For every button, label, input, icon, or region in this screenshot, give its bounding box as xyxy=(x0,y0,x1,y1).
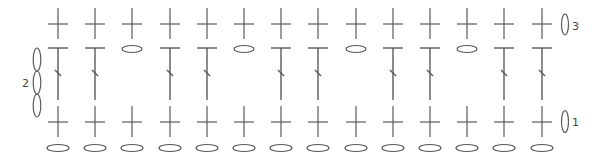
chain-icon xyxy=(346,46,366,53)
crochet-chart: 2 3 1 xyxy=(0,0,600,163)
chain-icon xyxy=(345,145,367,152)
double-crochet-icon xyxy=(383,48,403,100)
single-crochet-icon xyxy=(160,8,180,39)
single-crochet-icon xyxy=(85,106,105,137)
row-3-turning-chain: 3 xyxy=(562,14,580,35)
chain-icon xyxy=(493,145,515,152)
single-crochet-icon xyxy=(457,8,477,39)
row-label-2: 2 xyxy=(22,77,29,90)
single-crochet-icon xyxy=(346,106,366,137)
single-crochet-icon xyxy=(234,8,254,39)
double-crochet-icon xyxy=(48,48,68,100)
row-2-double-crochet xyxy=(48,46,552,101)
chain-icon xyxy=(234,46,254,53)
double-crochet-icon xyxy=(160,48,180,100)
chain-icon xyxy=(84,145,106,152)
single-crochet-icon xyxy=(494,106,514,137)
single-crochet-icon xyxy=(197,8,217,39)
single-crochet-icon xyxy=(308,8,328,39)
chain-icon xyxy=(270,145,292,152)
single-crochet-icon xyxy=(122,8,142,39)
double-crochet-icon xyxy=(420,48,440,100)
single-crochet-icon xyxy=(532,8,552,39)
row-2-turning-chain: 2 xyxy=(22,48,41,117)
chain-icon xyxy=(419,145,441,152)
row-3-single-crochet xyxy=(48,8,552,39)
row-1-turning-chain: 1 xyxy=(562,111,580,133)
chain-icon xyxy=(33,48,41,71)
chain-icon xyxy=(531,145,553,152)
row-label-3: 3 xyxy=(572,20,579,33)
foundation-chain-row xyxy=(47,145,553,152)
single-crochet-icon xyxy=(85,8,105,39)
chain-icon xyxy=(382,145,404,152)
row-label-1: 1 xyxy=(572,116,579,129)
single-crochet-icon xyxy=(457,106,477,137)
chain-icon xyxy=(307,145,329,152)
single-crochet-icon xyxy=(532,106,552,137)
single-crochet-icon xyxy=(420,106,440,137)
single-crochet-icon xyxy=(346,8,366,39)
single-crochet-icon xyxy=(48,8,68,39)
double-crochet-icon xyxy=(271,48,291,100)
single-crochet-icon xyxy=(308,106,328,137)
chain-icon xyxy=(196,145,218,152)
single-crochet-icon xyxy=(197,106,217,137)
single-crochet-icon xyxy=(160,106,180,137)
single-crochet-icon xyxy=(122,106,142,137)
chain-icon xyxy=(33,94,41,117)
single-crochet-icon xyxy=(420,8,440,39)
single-crochet-icon xyxy=(494,8,514,39)
double-crochet-icon xyxy=(85,48,105,100)
single-crochet-icon xyxy=(271,106,291,137)
chain-icon xyxy=(457,46,477,53)
double-crochet-icon xyxy=(308,48,328,100)
double-crochet-icon xyxy=(532,48,552,100)
chain-icon xyxy=(47,145,69,152)
chain-icon xyxy=(562,111,569,133)
chain-icon xyxy=(121,145,143,152)
single-crochet-icon xyxy=(383,106,403,137)
chain-icon xyxy=(33,71,41,94)
double-crochet-icon xyxy=(494,48,514,100)
chain-icon xyxy=(562,14,569,35)
double-crochet-icon xyxy=(197,48,217,100)
single-crochet-icon xyxy=(234,106,254,137)
single-crochet-icon xyxy=(271,8,291,39)
chain-icon xyxy=(233,145,255,152)
chain-icon xyxy=(456,145,478,152)
row-1-single-crochet xyxy=(48,106,552,137)
single-crochet-icon xyxy=(383,8,403,39)
single-crochet-icon xyxy=(48,106,68,137)
chain-icon xyxy=(122,46,142,53)
chain-icon xyxy=(159,145,181,152)
